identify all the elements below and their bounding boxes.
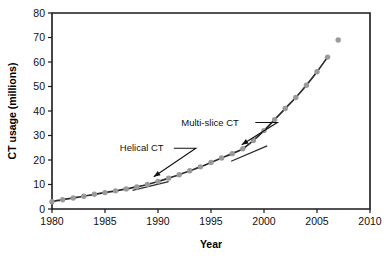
x-tick-label: 1985: [93, 215, 117, 227]
data-point: [198, 164, 203, 169]
data-point: [187, 168, 192, 173]
data-point: [155, 179, 160, 184]
x-axis-title: Year: [200, 238, 222, 250]
data-point: [92, 192, 97, 197]
data-point: [336, 37, 341, 42]
data-point: [314, 69, 319, 74]
data-point: [272, 117, 277, 122]
x-tick-label: 1990: [146, 215, 170, 227]
data-point: [304, 83, 309, 88]
y-tick-label: 40: [33, 105, 45, 117]
trend-line-group: [52, 57, 328, 202]
data-point: [240, 146, 245, 151]
data-point: [124, 186, 129, 191]
x-tick-label: 2005: [305, 215, 329, 227]
data-point: [102, 190, 107, 195]
ct-usage-chart-figure: 01020304050607080 1980198519901995200020…: [0, 0, 392, 257]
x-axis-tick-labels: 1980198519901995200020052010: [40, 215, 382, 227]
data-point: [293, 95, 298, 100]
data-point: [60, 197, 65, 202]
data-point: [177, 172, 182, 177]
data-point: [230, 151, 235, 156]
x-tick-label: 1995: [199, 215, 223, 227]
data-point: [134, 184, 139, 189]
y-tick-label: 50: [33, 80, 45, 92]
data-point: [208, 160, 213, 165]
x-tick-label: 2000: [252, 215, 276, 227]
data-point: [81, 194, 86, 199]
data-point: [71, 195, 76, 200]
data-point: [325, 54, 330, 59]
annotation-arrow-head: [242, 139, 249, 145]
y-tick-label: 20: [33, 154, 45, 166]
annotation-label-helical-ct: Helical CT: [120, 142, 164, 153]
y-tick-label: 60: [33, 56, 45, 68]
x-tick-label: 2010: [358, 215, 382, 227]
annotation-tangent: [231, 146, 267, 161]
y-axis-title: CT usage (millions): [6, 63, 18, 160]
trend-line: [52, 57, 328, 202]
y-axis-tick-labels: 01020304050607080: [33, 7, 45, 215]
data-point: [219, 155, 224, 160]
data-point: [166, 175, 171, 180]
y-tick-label: 0: [39, 203, 45, 215]
data-point: [145, 182, 150, 187]
y-tick-label: 80: [33, 7, 45, 19]
data-point: [49, 199, 54, 204]
x-tick-label: 1980: [40, 215, 64, 227]
y-tick-label: 30: [33, 129, 45, 141]
y-tick-label: 70: [33, 31, 45, 43]
chart-canvas: 01020304050607080 1980198519901995200020…: [0, 0, 392, 257]
data-point: [113, 188, 118, 193]
annotation-label-multi-slice-ct: Multi-slice CT: [181, 117, 239, 128]
data-point: [283, 106, 288, 111]
y-tick-label: 10: [33, 178, 45, 190]
plot-frame: [52, 13, 370, 209]
annotation-arrow-head: [154, 171, 161, 177]
